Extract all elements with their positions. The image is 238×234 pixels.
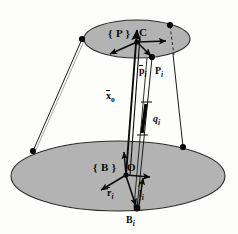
position-vector-label: xo xyxy=(106,91,115,101)
platform-point-label: Pi xyxy=(155,66,163,76)
base-vector-subscript: i xyxy=(111,192,113,201)
platform-vector-symbol: p xyxy=(139,66,145,76)
platform-vector-subscript: i xyxy=(145,70,147,79)
base-origin-label: O xyxy=(127,162,136,173)
position-vector-subscript: o xyxy=(111,95,115,104)
leg-length-subscript: i xyxy=(158,118,160,127)
bottom-joint-bi xyxy=(134,205,141,212)
base-origin-point-o xyxy=(123,172,128,177)
base-point-subscript: i xyxy=(133,219,135,228)
base-vector-label: ri xyxy=(107,188,114,198)
base-point-label: Bi xyxy=(126,215,135,225)
top-joint-left xyxy=(79,36,85,42)
stewart-platform-diagram: { P } C pi Pi xo qi { B } O ri li Bi xyxy=(0,0,238,234)
leg-length-label: qi xyxy=(153,114,160,124)
moving-center-label: C xyxy=(139,27,147,38)
moving-center-point-c xyxy=(134,39,139,44)
bottom-platform-ellipse xyxy=(11,141,225,211)
base-point-symbol: B xyxy=(126,214,133,225)
moving-frame-label: { P } xyxy=(108,28,130,39)
unit-vector-subscript: i xyxy=(142,193,144,202)
bottom-joint-right xyxy=(180,144,186,150)
platform-point-subscript: i xyxy=(161,70,163,79)
top-joint-pi xyxy=(149,54,155,60)
top-joint-right-rear xyxy=(167,22,173,28)
strut-left-inner xyxy=(35,41,84,152)
frame-p-axis-right xyxy=(137,41,166,42)
base-frame-label: { B } xyxy=(93,162,117,173)
strut-left xyxy=(33,39,82,151)
unit-vector-label: li xyxy=(139,189,144,199)
platform-vector-label: pi xyxy=(139,66,147,76)
bottom-joint-left xyxy=(30,148,36,154)
